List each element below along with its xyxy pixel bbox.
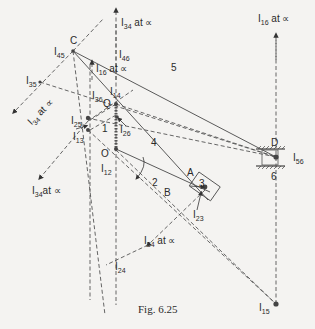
label-link-5: 5 (171, 62, 177, 73)
label-i45: I45 (54, 46, 65, 59)
label-point-b: B (164, 187, 171, 198)
pointer-arrows (76, 119, 203, 210)
label-link-2: 2 (152, 177, 158, 188)
label-point-a: A (187, 167, 194, 178)
label-i24: I24 (115, 261, 126, 274)
label-i34-at-inf-bottom: I34 at ∝ (144, 235, 175, 248)
link-2 (116, 149, 210, 192)
label-i46: I46 (119, 49, 130, 62)
label-link-4: 4 (151, 137, 157, 148)
pivots (38, 49, 278, 306)
label-i34-at-inf-top: I34 at ∝ (121, 17, 152, 30)
label-i34-at-inf-left: I34 at ∝ (25, 97, 56, 128)
label-i16-at-inf-right: I16 at ∝ (258, 13, 289, 26)
label-i12: I12 (101, 163, 112, 176)
label-i25: I25 (71, 115, 82, 128)
label-point-c: C (70, 35, 77, 46)
label-i35: I35 (26, 75, 37, 88)
instant-centre-diagram: C D Q O A B 1 2 3 4 5 6 I45 I46 I35 I36 … (0, 0, 315, 329)
label-i23: I23 (193, 209, 204, 222)
label-point-o: O (101, 148, 109, 159)
label-point-d: D (271, 137, 278, 148)
label-i15: I15 (259, 302, 270, 315)
label-i34-at-inf-lowleft: I34at ∝ (32, 185, 61, 198)
label-link-3: 3 (199, 178, 205, 189)
slider-guide (256, 146, 285, 169)
label-i36: I36 (92, 90, 103, 103)
label-link-6: 6 (271, 171, 277, 182)
label-i56: I56 (293, 152, 304, 165)
label-point-q: Q (103, 98, 111, 109)
figure-caption: Fig. 6.25 (138, 303, 178, 315)
label-link-1: 1 (102, 123, 108, 134)
label-i14: I14 (110, 86, 121, 99)
